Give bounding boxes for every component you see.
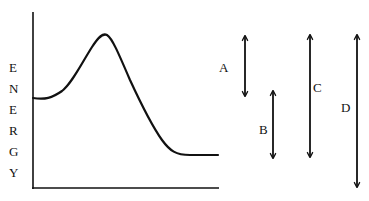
y-label-letter: G xyxy=(9,144,18,159)
energy-diagram: E N E R G Y A B C D xyxy=(0,0,369,201)
y-label-letter: R xyxy=(9,123,18,138)
y-axis-label: E N E R G Y xyxy=(9,60,19,180)
arrow-c-label: C xyxy=(313,80,322,95)
arrow-d-label: D xyxy=(341,100,350,115)
energy-curve xyxy=(33,34,218,155)
y-label-letter: E xyxy=(9,60,17,75)
arrow-a-label: A xyxy=(219,60,229,75)
y-label-letter: Y xyxy=(9,165,19,180)
y-label-letter: N xyxy=(9,81,19,96)
y-label-letter: E xyxy=(9,102,17,117)
arrow-b-label: B xyxy=(259,122,268,137)
